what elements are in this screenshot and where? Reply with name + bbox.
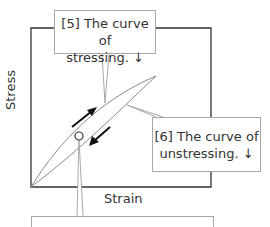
point-marker (75, 132, 83, 140)
stressing-curve (31, 76, 156, 187)
callout-stressing-curve: [5] The curve of stressing. ↓ (54, 10, 156, 54)
unstressing-curve (31, 76, 156, 187)
callout-unstressing-curve: [6] The curve of unstressing. ↓ (152, 117, 261, 172)
callout-5-line1: [5] The curve of (55, 15, 155, 49)
callout-point (31, 216, 214, 227)
callout-6-line1: [6] The curve of (153, 128, 260, 145)
y-axis-label: Stress (3, 70, 18, 110)
callout-6-line2: unstressing. ↓ (153, 145, 260, 162)
callout-7-pointer (77, 139, 83, 216)
callout-5-line2: stressing. ↓ (55, 49, 155, 66)
arrow-up-right-icon (72, 107, 97, 127)
callout-6-pointer (127, 105, 163, 117)
x-axis-label: Strain (104, 191, 143, 206)
